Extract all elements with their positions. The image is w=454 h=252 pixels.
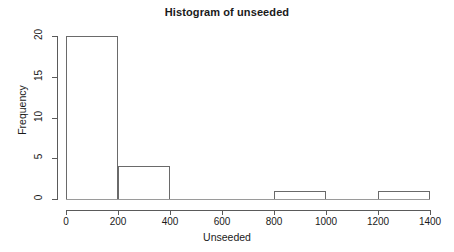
y-axis-title: Frequency [16, 70, 28, 150]
y-axis-tick-label: 20 [33, 23, 44, 47]
x-axis-tick-label: 1400 [410, 216, 450, 227]
plot-area: 020040060080010001200140005101520 [0, 0, 454, 252]
x-axis-tick-label: 1000 [306, 216, 346, 227]
x-axis-title: Unseeded [0, 231, 454, 243]
plot-baseline [66, 199, 430, 200]
x-axis-tick-label: 400 [150, 216, 190, 227]
x-axis-tick-label: 1200 [358, 216, 398, 227]
x-axis-tick-label: 600 [202, 216, 242, 227]
x-axis-tick [430, 210, 431, 215]
x-axis-tick-label: 800 [254, 216, 294, 227]
y-axis-tick-label: 10 [33, 104, 44, 128]
y-axis-tick-label: 5 [33, 145, 44, 169]
x-axis-tick-label: 200 [98, 216, 138, 227]
y-axis-line [57, 36, 58, 200]
histogram-bar [66, 36, 118, 200]
histogram-bar [118, 166, 170, 200]
histogram-figure: Histogram of unseeded 020040060080010001… [0, 0, 454, 252]
x-axis-line [66, 210, 430, 211]
y-axis-tick-label: 0 [33, 186, 44, 210]
x-axis-tick-label: 0 [46, 216, 86, 227]
y-axis-tick-label: 15 [33, 63, 44, 87]
